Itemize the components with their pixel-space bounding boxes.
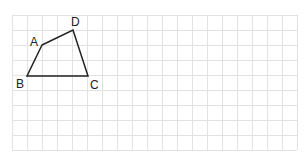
vertex-label-d: D bbox=[71, 15, 80, 29]
vertex-label-c: C bbox=[90, 78, 99, 92]
grid-diagram: A D C B bbox=[0, 0, 308, 164]
vertex-label-b: B bbox=[16, 77, 24, 91]
square-grid bbox=[12, 15, 298, 151]
vertex-label-a: A bbox=[30, 35, 38, 49]
